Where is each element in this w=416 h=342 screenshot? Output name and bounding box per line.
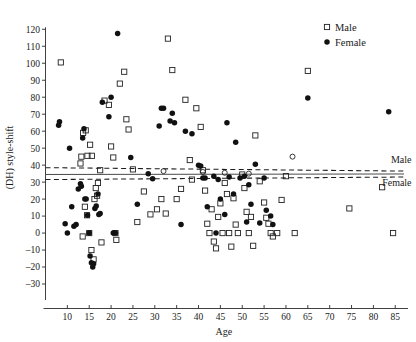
data-point-male [159, 197, 164, 202]
data-point-male [198, 124, 203, 129]
data-point-male [205, 221, 210, 226]
data-point-female [213, 230, 219, 236]
data-point-male [305, 68, 310, 73]
data-point-female [135, 201, 141, 207]
data-point-male [262, 200, 267, 205]
data-point-female [79, 184, 85, 190]
legend-marker-male [324, 24, 329, 29]
data-point-female [108, 94, 114, 100]
data-point-female [215, 177, 221, 183]
y-tick-label: –20 [25, 262, 41, 272]
data-point-female [202, 175, 208, 181]
data-point-female [100, 100, 106, 106]
data-point-male [187, 157, 192, 162]
data-point-male [347, 206, 352, 211]
data-point-female [95, 191, 101, 197]
data-point-female [87, 253, 93, 258]
y-tick-label: 40 [31, 161, 41, 171]
data-point-female [145, 171, 151, 177]
data-point-female [233, 139, 239, 145]
x-tick-label: 65 [303, 312, 313, 322]
x-tick-label: 25 [128, 312, 138, 322]
x-tick-label: 70 [325, 312, 335, 322]
y-tick-label: 30 [31, 178, 41, 188]
data-point-female [189, 131, 195, 137]
y-tick-label: 50 [31, 144, 41, 154]
y-tick-label: 110 [26, 42, 40, 52]
y-tick-label: 70 [31, 110, 41, 120]
data-point-female [198, 163, 204, 169]
data-point-female [205, 204, 211, 210]
data-point-male [235, 230, 240, 235]
data-point-female [73, 222, 79, 228]
x-tick-label: 55 [259, 312, 269, 322]
data-point-male [220, 230, 225, 235]
data-point-male [89, 247, 94, 252]
data-point-male [58, 60, 63, 65]
data-point-male [233, 222, 238, 227]
data-point-male [141, 189, 146, 194]
data-point-male [194, 106, 199, 111]
x-tick-label: 40 [194, 312, 204, 322]
data-point-female [178, 222, 184, 228]
x-tick-label: 45 [216, 312, 226, 322]
x-tick-label: 10 [63, 312, 73, 322]
data-point-male [122, 69, 127, 74]
data-point-male [130, 167, 135, 172]
trend-label-female: Female [382, 177, 412, 188]
data-point-male [253, 133, 258, 138]
trend-line-overall [46, 174, 405, 175]
data-point-female [115, 31, 121, 37]
y-tick-label: 0 [35, 228, 40, 238]
data-point-female [253, 162, 259, 168]
data-point-female [183, 128, 189, 134]
data-point-male [224, 191, 229, 196]
data-point-female [86, 230, 92, 236]
x-axis: 10152025303540455055606570758085 [44, 305, 409, 322]
data-point-female [128, 155, 134, 161]
data-point-male [148, 212, 153, 217]
data-point-female [244, 219, 250, 225]
y-tick-label: –30 [25, 279, 41, 289]
data-point-male [78, 161, 83, 166]
data-point-male [189, 177, 194, 182]
data-point-female [97, 211, 103, 217]
data-point-male [216, 214, 221, 219]
x-axis-title: Age [215, 326, 232, 337]
data-point-male [163, 211, 168, 216]
data-point-female [81, 126, 87, 132]
legend-label-female: Female [335, 37, 366, 48]
data-point-female [246, 182, 252, 188]
data-point-male [207, 230, 212, 235]
data-point-female [80, 135, 86, 141]
data-point-female [62, 221, 68, 227]
data-point-female [172, 120, 178, 126]
data-point-male [114, 237, 119, 242]
y-axis-title: (DH) style-shift [4, 125, 16, 189]
data-point-male [126, 127, 131, 132]
data-point-male [111, 155, 116, 160]
data-point-female [218, 196, 224, 202]
data-point-female [85, 212, 91, 218]
data-point-female [222, 212, 228, 218]
trend-lines [46, 168, 405, 180]
trend-line-female [46, 177, 405, 180]
data-point-female [93, 203, 99, 209]
data-point-male [117, 81, 122, 86]
data-point-male [80, 234, 85, 239]
y-tick-label: 60 [31, 127, 41, 137]
data-point-open-circle [200, 169, 205, 174]
data-point-female [150, 176, 156, 182]
data-point-male [251, 243, 256, 248]
data-point-male [93, 185, 98, 190]
data-point-female [113, 230, 119, 236]
data-point-male [202, 188, 207, 193]
data-point-female [257, 220, 263, 226]
data-point-male [95, 180, 100, 185]
y-axis: –30–20–100102030405060708090100110120 [25, 25, 46, 300]
data-point-female [211, 173, 217, 179]
data-point-open-circle [290, 154, 295, 159]
data-point-female [156, 123, 162, 129]
data-point-male [183, 97, 188, 102]
data-point-male [292, 230, 297, 235]
